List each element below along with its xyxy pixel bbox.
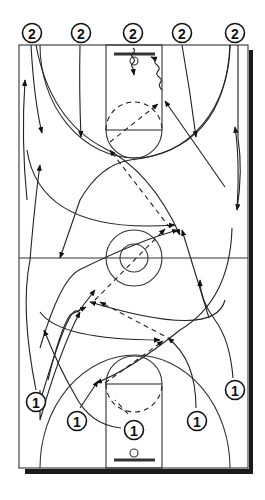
cut-path bbox=[40, 230, 178, 348]
cut-path bbox=[182, 230, 209, 318]
bottom-hoop bbox=[130, 449, 138, 457]
player-marker-team1: 1 bbox=[125, 421, 144, 440]
cut-path bbox=[182, 45, 196, 137]
player-marker-team1: 1 bbox=[68, 412, 87, 431]
player-label: 1 bbox=[130, 423, 138, 439]
player-label: 2 bbox=[129, 26, 137, 42]
cut-path bbox=[200, 280, 233, 378]
player-label: 1 bbox=[32, 395, 40, 411]
bottom-ft-circle-upper bbox=[106, 356, 162, 384]
sweep-path bbox=[96, 228, 232, 383]
court-diagram: 22222 11111 bbox=[0, 0, 265, 500]
top-ft-circle-upper bbox=[106, 102, 162, 130]
pass-path bbox=[110, 150, 170, 228]
pass-path bbox=[105, 341, 163, 383]
player-marker-team1: 1 bbox=[188, 412, 207, 431]
dribble-path bbox=[132, 48, 135, 75]
cut-path bbox=[26, 165, 40, 390]
player-label: 2 bbox=[178, 26, 186, 42]
bottom-three-point-arc bbox=[40, 355, 230, 468]
return-path bbox=[235, 127, 238, 210]
player-marker-team1: 1 bbox=[226, 381, 245, 400]
player-marker-team1: 1 bbox=[27, 393, 46, 412]
bottom-ft-circle-lower bbox=[106, 384, 162, 412]
return-path bbox=[23, 80, 27, 200]
player-marker-team2: 2 bbox=[23, 24, 42, 43]
player-marker-team2: 2 bbox=[173, 24, 192, 43]
top-three-point-arc bbox=[40, 45, 230, 158]
court-shadow-right bbox=[249, 50, 253, 474]
pass-path bbox=[95, 229, 165, 300]
team-2-players: 22222 bbox=[23, 24, 245, 43]
player-label: 2 bbox=[77, 26, 85, 42]
cut-path bbox=[80, 381, 98, 408]
court-shadow-bottom bbox=[25, 469, 253, 474]
sweep-path bbox=[27, 150, 175, 226]
pass-path bbox=[115, 400, 128, 414]
cut-path bbox=[40, 290, 95, 402]
player-label: 2 bbox=[231, 26, 239, 42]
player-label: 1 bbox=[193, 414, 201, 430]
player-marker-team2: 2 bbox=[72, 24, 91, 43]
player-label: 1 bbox=[231, 383, 239, 399]
cut-path bbox=[80, 45, 81, 137]
player-label: 1 bbox=[73, 414, 81, 430]
sweep-path bbox=[40, 312, 160, 340]
team-1-players: 11111 bbox=[27, 381, 245, 440]
player-marker-team2: 2 bbox=[226, 24, 245, 43]
player-marker-team2: 2 bbox=[124, 24, 143, 43]
player-label: 2 bbox=[28, 26, 36, 42]
cut-path bbox=[48, 307, 86, 380]
pass-path bbox=[110, 104, 158, 142]
cut-path bbox=[168, 338, 196, 408]
lane-run-path bbox=[165, 101, 225, 187]
dribble-path bbox=[151, 57, 162, 90]
